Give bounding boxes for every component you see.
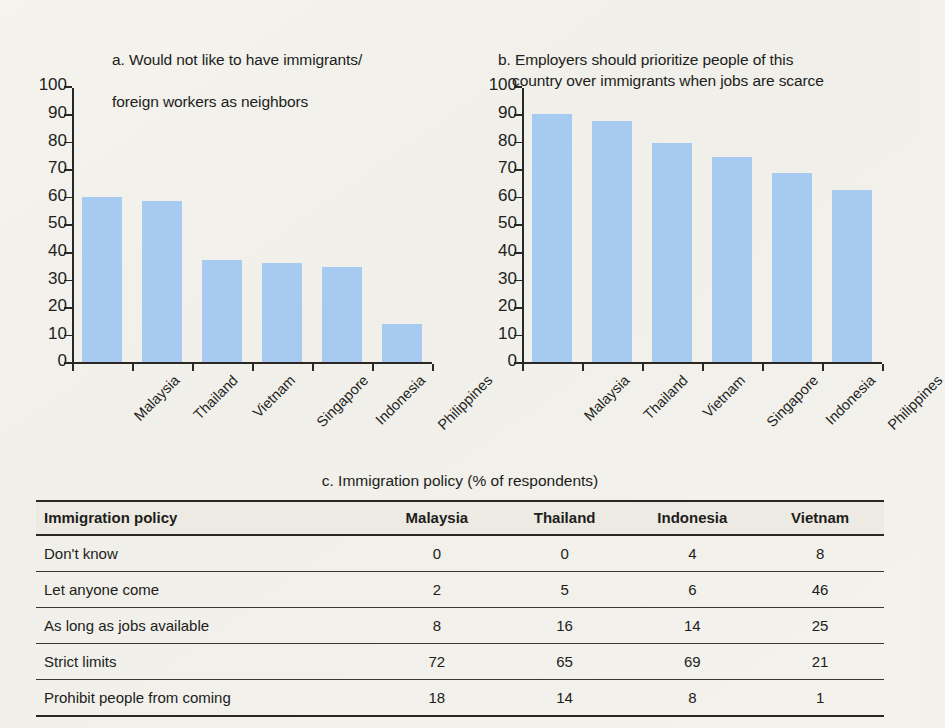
x-tick-label: Thailand — [640, 372, 691, 423]
table-cell-policy: Let anyone come — [36, 572, 373, 608]
y-tick-label: 100 — [39, 75, 67, 95]
y-tick-label: 30 — [48, 269, 67, 289]
bar — [262, 263, 302, 362]
y-tick-label: 60 — [48, 186, 67, 206]
table-cell-value: 4 — [628, 535, 756, 572]
y-tick-label: 70 — [48, 158, 67, 178]
table-cell-policy: Strict limits — [36, 644, 373, 680]
table-header-row: Immigration policyMalaysiaThailandIndone… — [36, 501, 884, 535]
chart-b-x-labels: MalaysiaThailandVietnamSingaporeIndonesi… — [522, 364, 882, 464]
y-tick-label: 0 — [508, 351, 517, 371]
table-cell-value: 6 — [628, 572, 756, 608]
table-row: As long as jobs available8161425 — [36, 608, 884, 644]
table-cell-policy: Prohibit people from coming — [36, 680, 373, 717]
table-cell-value: 21 — [756, 644, 884, 680]
x-tick-label: Indonesia — [372, 372, 428, 428]
x-tick-label: Vietnam — [700, 372, 749, 421]
table-cell-value: 8 — [628, 680, 756, 717]
y-tick-label: 50 — [498, 213, 517, 233]
y-tick-label: 0 — [58, 351, 67, 371]
chart-b-plot-area: 0102030405060708090100 MalaysiaThailandV… — [522, 88, 882, 364]
immigration-policy-table: Immigration policyMalaysiaThailandIndone… — [36, 500, 884, 717]
bar — [832, 190, 872, 363]
x-tick-label: Indonesia — [822, 372, 878, 428]
x-tick-label: Singapore — [313, 372, 371, 430]
table-cell-value: 72 — [373, 644, 501, 680]
table-cell-value: 2 — [373, 572, 501, 608]
y-tick-label: 100 — [489, 75, 517, 95]
table-cell-value: 18 — [373, 680, 501, 717]
y-tick-label: 40 — [498, 241, 517, 261]
table-cell-value: 25 — [756, 608, 884, 644]
table-cell-value: 14 — [501, 680, 629, 717]
x-tick-label: Thailand — [190, 372, 241, 423]
x-tick-label: Vietnam — [250, 372, 299, 421]
y-tick-label: 80 — [498, 131, 517, 151]
table-caption: c. Immigration policy (% of respondents) — [36, 472, 884, 490]
chart-a-plot-area: 0102030405060708090100 MalaysiaThailandV… — [72, 88, 432, 364]
x-tick-label: Philippines — [885, 372, 945, 433]
x-tick-label: Malaysia — [581, 372, 633, 424]
table-cell-value: 46 — [756, 572, 884, 608]
table-row: Strict limits72656921 — [36, 644, 884, 680]
table-cell-value: 5 — [501, 572, 629, 608]
chart-panel-a: a. Would not like to have immigrants/ fo… — [0, 0, 468, 460]
y-tick-label: 90 — [498, 103, 517, 123]
table-cell-value: 0 — [373, 535, 501, 572]
bar — [202, 260, 242, 362]
table-column-header: Immigration policy — [36, 501, 373, 535]
bar — [142, 201, 182, 362]
table-cell-value: 8 — [756, 535, 884, 572]
immigration-policy-table-block: c. Immigration policy (% of respondents)… — [36, 472, 884, 717]
chart-b-title-line1: b. Employers should prioritize people of… — [498, 51, 793, 68]
y-tick-label: 40 — [48, 241, 67, 261]
bar — [652, 143, 692, 362]
table-column-header: Vietnam — [756, 501, 884, 535]
y-tick-label: 30 — [498, 269, 517, 289]
y-tick-label: 70 — [498, 158, 517, 178]
y-tick-label: 90 — [48, 103, 67, 123]
table-row: Prohibit people from coming181481 — [36, 680, 884, 717]
x-tick-mark — [882, 364, 884, 371]
y-tick-label: 20 — [48, 296, 67, 316]
chart-b-y-axis — [522, 88, 524, 364]
table-head: Immigration policyMalaysiaThailandIndone… — [36, 501, 884, 535]
table-column-header: Malaysia — [373, 501, 501, 535]
y-tick-label: 10 — [498, 324, 517, 344]
table-column-header: Indonesia — [628, 501, 756, 535]
chart-panel-b: b. Employers should prioritize people of… — [450, 0, 920, 460]
table-cell-value: 14 — [628, 608, 756, 644]
chart-a-y-axis — [72, 88, 74, 364]
table-cell-value: 65 — [501, 644, 629, 680]
table-row: Let anyone come25646 — [36, 572, 884, 608]
bar — [532, 114, 572, 362]
table-cell-policy: As long as jobs available — [36, 608, 373, 644]
table-row: Don't know0048 — [36, 535, 884, 572]
y-tick-label: 60 — [498, 186, 517, 206]
charts-row: a. Would not like to have immigrants/ fo… — [0, 0, 920, 460]
y-tick-label: 80 — [48, 131, 67, 151]
bar — [592, 121, 632, 363]
chart-a-title-line1: a. Would not like to have immigrants/ — [112, 51, 362, 68]
table-cell-policy: Don't know — [36, 535, 373, 572]
table-cell-value: 69 — [628, 644, 756, 680]
table-body: Don't know0048Let anyone come25646As lon… — [36, 535, 884, 716]
table-cell-value: 16 — [501, 608, 629, 644]
bar — [382, 324, 422, 363]
bar — [322, 267, 362, 362]
bar — [712, 157, 752, 363]
y-tick-label: 50 — [48, 213, 67, 233]
y-tick-label: 20 — [498, 296, 517, 316]
y-tick-label: 10 — [48, 324, 67, 344]
table-cell-value: 0 — [501, 535, 629, 572]
table-cell-value: 8 — [373, 608, 501, 644]
x-tick-label: Singapore — [763, 372, 821, 430]
x-tick-mark — [432, 364, 434, 371]
table-cell-value: 1 — [756, 680, 884, 717]
table-column-header: Thailand — [501, 501, 629, 535]
chart-a-x-labels: MalaysiaThailandVietnamSingaporeIndonesi… — [72, 364, 432, 464]
bar — [772, 173, 812, 362]
x-tick-label: Malaysia — [131, 372, 183, 424]
bar — [82, 197, 122, 363]
